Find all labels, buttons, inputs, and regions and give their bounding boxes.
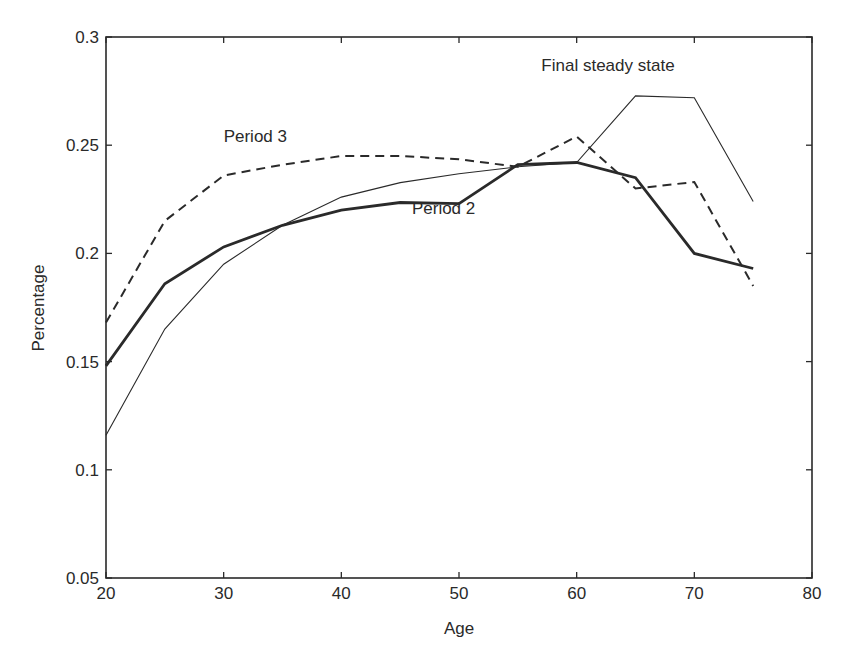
y-tick-label: 0.1 <box>75 461 99 480</box>
y-axis-title: Percentage <box>29 265 48 352</box>
series-period-3 <box>106 137 753 323</box>
annotation-final-steady-state: Final steady state <box>541 56 674 75</box>
annotation-period-3: Period 3 <box>224 127 287 146</box>
annotation-period-2: Period 2 <box>412 199 475 218</box>
data-series <box>106 96 753 435</box>
y-tick-label: 0.2 <box>75 244 99 263</box>
series-period-2 <box>106 163 753 366</box>
x-tick-label: 30 <box>214 584 233 603</box>
axis-tick-labels: 203040506070800.050.10.150.20.250.3 <box>66 28 822 603</box>
x-tick-label: 20 <box>97 584 116 603</box>
x-tick-label: 40 <box>332 584 351 603</box>
series-final-steady-state <box>106 96 753 435</box>
y-tick-label: 0.05 <box>66 569 99 588</box>
y-tick-label: 0.25 <box>66 136 99 155</box>
x-tick-label: 70 <box>685 584 704 603</box>
x-axis-title: Age <box>444 619 474 638</box>
y-tick-label: 0.15 <box>66 353 99 372</box>
y-tick-label: 0.3 <box>75 28 99 47</box>
x-tick-label: 50 <box>450 584 469 603</box>
x-tick-label: 60 <box>567 584 586 603</box>
x-tick-label: 80 <box>803 584 822 603</box>
line-chart: 203040506070800.050.10.150.20.250.3 Peri… <box>0 0 848 665</box>
series-annotations: Period 3Period 2Final steady state <box>224 56 675 219</box>
